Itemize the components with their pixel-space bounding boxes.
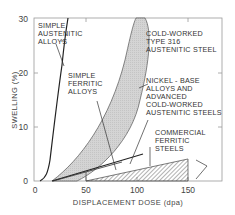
- svg-text:0: 0: [23, 176, 28, 186]
- annotation-commercial-ferritic: COMMERCIAL FERRITIC STEELS: [155, 128, 206, 153]
- annotation-simple-ferritic: SIMPLE FERRITIC ALLOYS: [68, 71, 103, 96]
- svg-text:0: 0: [33, 185, 38, 195]
- x-axis-title: DISPLACEMENT DOSE (dpa): [73, 198, 183, 207]
- svg-text:20: 20: [19, 68, 29, 78]
- svg-text:AUSTENITIC STEEL: AUSTENITIC STEEL: [146, 45, 217, 54]
- svg-text:ALLOYS: ALLOYS: [38, 37, 67, 46]
- svg-text:150: 150: [181, 185, 195, 195]
- annotation-simple-austenitic: SIMPLE AUSTENITIC ALLOYS: [38, 21, 83, 46]
- svg-text:100: 100: [130, 185, 144, 195]
- y-axis-title: SWELLING (%): [10, 71, 19, 128]
- svg-text:ALLOYS: ALLOYS: [68, 87, 97, 96]
- annotation-cold-worked-316: COLD-WORKED TYPE 316 AUSTENITIC STEEL: [146, 29, 217, 54]
- svg-text:30: 30: [19, 14, 29, 24]
- x-tick-labels: 0 50 100 150: [33, 185, 196, 195]
- svg-text:STEELS: STEELS: [155, 144, 184, 153]
- annotation-nickel-base: NICKEL - BASE ALLOYS AND ADVANCED COLD-W…: [146, 76, 222, 117]
- svg-text:AUSTENITIC STEELS: AUSTENITIC STEELS: [146, 108, 222, 117]
- svg-text:10: 10: [19, 122, 29, 132]
- y-tick-labels: 0 10 20 30: [19, 14, 29, 186]
- svg-text:50: 50: [81, 185, 91, 195]
- swelling-chart: SIMPLE AUSTENITIC ALLOYS SIMPLE FERRITIC…: [0, 0, 235, 215]
